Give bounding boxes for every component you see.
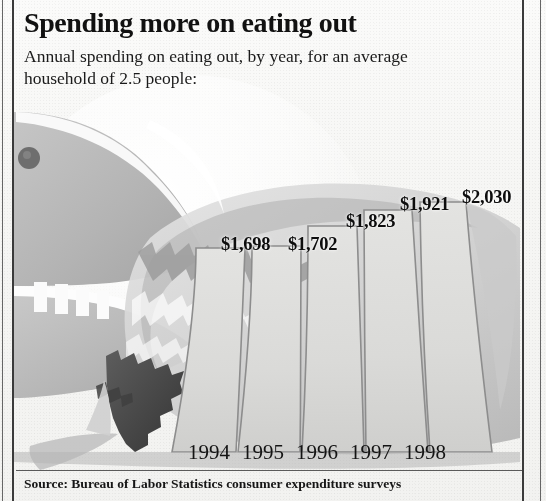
year-label-1994: 1994 — [188, 440, 230, 465]
year-label-1998: 1998 — [404, 440, 446, 465]
value-label-1995: $1,702 — [288, 234, 337, 255]
value-label-1994: $1,698 — [221, 234, 270, 255]
year-label-1995: 1995 — [242, 440, 284, 465]
year-label-1997: 1997 — [350, 440, 392, 465]
value-label-1997: $1,921 — [400, 194, 449, 215]
year-label-1996: 1996 — [296, 440, 338, 465]
header-block: Spending more on eating out Annual spend… — [24, 8, 494, 89]
page-title: Spending more on eating out — [24, 8, 494, 38]
shark-eye-glint — [23, 151, 31, 159]
value-label-1996: $1,823 — [346, 211, 395, 232]
year-axis: 19941995199619971998 — [0, 440, 546, 466]
infographic-root: Spending more on eating out Annual spend… — [0, 0, 546, 501]
source-note: Source: Bureau of Labor Statistics consu… — [24, 476, 401, 492]
page-subtitle: Annual spending on eating out, by year, … — [24, 46, 474, 89]
value-label-1998: $2,030 — [462, 187, 511, 208]
